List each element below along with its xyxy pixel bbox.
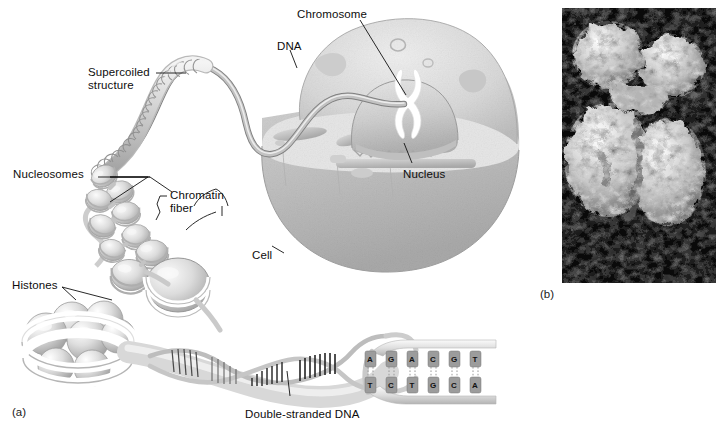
label-chromosome: Chromosome	[297, 8, 367, 21]
base-top-6: T	[470, 355, 480, 364]
label-double-stranded-dna: Double-stranded DNA	[245, 408, 359, 421]
label-nucleosomes: Nucleosomes	[13, 168, 84, 181]
base-top-1: A	[365, 355, 375, 364]
base-bottom-3: T	[407, 381, 417, 390]
base-top-5: G	[449, 355, 459, 364]
histone-octamer	[22, 301, 135, 386]
base-top-2: G	[386, 355, 396, 364]
label-supercoiled-structure: Supercoiled structure	[88, 66, 150, 92]
label-dna: DNA	[277, 40, 302, 53]
base-bottom-6: A	[470, 381, 480, 390]
base-bottom-1: T	[365, 381, 375, 390]
figure-root: Supercoiled structure Nucleosomes Chroma…	[0, 0, 725, 438]
base-bottom-5: C	[449, 381, 459, 390]
label-cell: Cell	[252, 249, 272, 262]
label-nucleus: Nucleus	[403, 168, 445, 181]
base-bottom-4: G	[428, 381, 438, 390]
label-chromatin-fiber: Chromatin fiber	[170, 189, 224, 215]
base-top-4: C	[428, 355, 438, 364]
micrograph-panel	[562, 8, 716, 283]
panel-label-a: (a)	[12, 406, 26, 418]
base-top-3: A	[407, 355, 417, 364]
panel-label-b: (b)	[540, 288, 554, 300]
label-histones: Histones	[12, 279, 58, 292]
base-bottom-2: C	[386, 381, 396, 390]
